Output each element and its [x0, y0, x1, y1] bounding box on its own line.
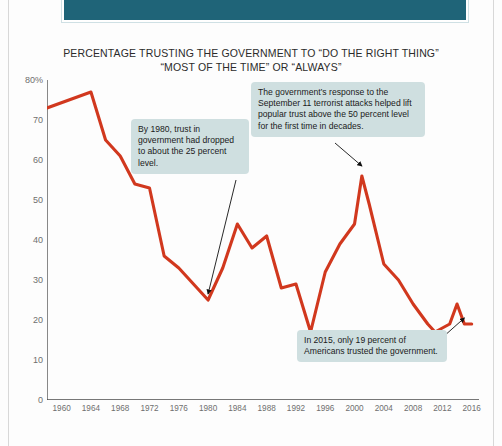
y-axis-tick-label: 20: [9, 315, 43, 325]
chart-title-line-1: PERCENTAGE TRUSTING THE GOVERNMENT TO “D…: [0, 46, 502, 60]
y-axis-tick-label: 50: [9, 195, 43, 205]
chart-page: PERCENTAGE TRUSTING THE GOVERNMENT TO “D…: [0, 0, 502, 446]
x-axis-tick-label: 2016: [455, 404, 489, 413]
y-axis-tick-label: 40: [9, 235, 43, 245]
y-axis-tick-label: 70: [9, 115, 43, 125]
y-axis-tick-label: 80%: [9, 75, 43, 85]
y-axis-tick-label: 60: [9, 155, 43, 165]
y-axis-tick-label: 30: [9, 275, 43, 285]
chart-title: PERCENTAGE TRUSTING THE GOVERNMENT TO “D…: [0, 46, 502, 74]
annotation-2015-callout: In 2015, only 19 percent of Americans tr…: [297, 330, 447, 362]
y-axis-tick-label: 10: [9, 355, 43, 365]
page-header-banner: [62, 0, 468, 22]
annotation-1980-callout: By 1980, trust in government had dropped…: [131, 119, 249, 174]
annotation-september-11-leader: [335, 143, 362, 166]
y-axis-tick-label: 0: [9, 395, 43, 405]
annotation-september-11-callout: The government’s response to the Septemb…: [251, 82, 425, 137]
chart-title-line-2: “MOST OF THE TIME” OR “ALWAYS”: [0, 60, 502, 74]
